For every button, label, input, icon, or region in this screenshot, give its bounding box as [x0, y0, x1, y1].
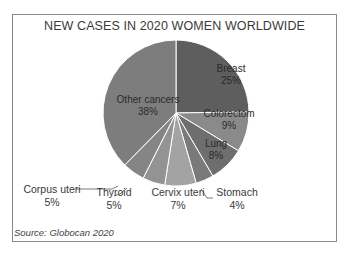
pie-chart — [0, 0, 349, 255]
label-corpus-uteri: Corpus uteri5% — [13, 183, 91, 209]
label-breast: Breast25% — [196, 63, 266, 87]
label-cervix-uteri: Cervix uteri7% — [143, 186, 213, 212]
chart-source: Source: Globocan 2020 — [14, 227, 114, 238]
label-thyroid: Thyroid5% — [92, 186, 136, 212]
label-stomach: Stomach4% — [212, 186, 262, 212]
label-lung: Lung8% — [191, 138, 241, 162]
label-colorectum: Colorectom9% — [196, 108, 262, 132]
label-other-cancers: Other cancers38% — [110, 94, 186, 118]
